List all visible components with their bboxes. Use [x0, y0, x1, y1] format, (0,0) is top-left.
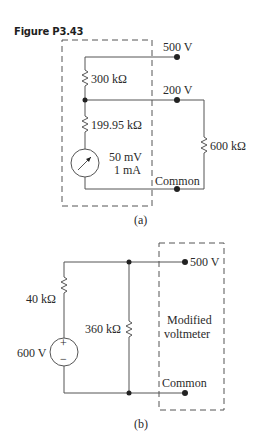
- terminal-common-a: Common: [155, 174, 200, 188]
- terminal-common-b: Common: [162, 376, 207, 390]
- resistor-360k: [126, 321, 132, 337]
- label-199-95k: 199.95 kΩ: [91, 118, 142, 132]
- label-600v: 600 V: [17, 346, 47, 360]
- terminal-500v-b: 500 V: [190, 255, 220, 269]
- label-300k: 300 kΩ: [91, 72, 127, 86]
- label-360k: 360 kΩ: [85, 322, 121, 336]
- label-600k: 600 kΩ: [210, 139, 246, 153]
- label-40k: 40 kΩ: [26, 292, 56, 306]
- resistor-40k: [61, 277, 67, 293]
- meter-rating-current: 1 mA: [114, 163, 141, 177]
- circuit-diagram: 500 V 200 V Common 300 kΩ 199.95 kΩ 600 …: [0, 0, 258, 445]
- terminal-200v-a: 200 V: [163, 83, 193, 97]
- source-plus: +: [60, 336, 67, 350]
- terminal-500v-a: 500 V: [163, 40, 193, 54]
- source-minus: −: [60, 352, 67, 366]
- resistor-199-95k: [82, 116, 88, 132]
- caption-a: (a): [134, 213, 147, 227]
- caption-b: (b): [134, 417, 148, 431]
- box-label-modified: Modified: [167, 313, 212, 327]
- box-label-voltmeter: voltmeter: [164, 327, 210, 341]
- meter-rating-voltage: 50 mV: [109, 150, 142, 164]
- resistor-600k: [201, 137, 207, 153]
- resistor-300k: [82, 70, 88, 86]
